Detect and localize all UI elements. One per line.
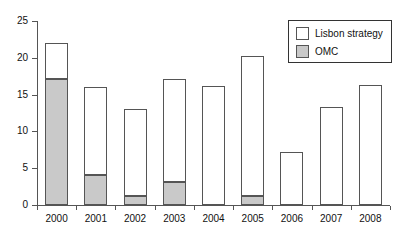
bar-2000	[45, 43, 68, 205]
bar-segment-lisbon-strategy-2007	[320, 107, 343, 205]
x-tick-mark	[233, 206, 234, 210]
stacked-bar-chart: 0510152025 20002001200220032004200520062…	[0, 0, 400, 241]
bar-segment-lisbon-strategy-2001	[84, 87, 107, 175]
y-tick-mark	[32, 58, 37, 59]
x-tick-label-2000: 2000	[37, 213, 77, 224]
y-tick-label: 15	[2, 90, 28, 100]
legend-item-omc: OMC	[296, 44, 338, 58]
x-tick-mark	[115, 206, 116, 210]
bar-2008	[359, 85, 382, 205]
y-tick-mark	[32, 95, 37, 96]
y-tick-label: 10	[2, 126, 28, 136]
y-axis-line	[37, 21, 38, 206]
x-tick-mark	[194, 206, 195, 210]
bar-2007	[320, 107, 343, 205]
bar-segment-lisbon-strategy-2008	[359, 85, 382, 205]
chart-legend: Lisbon strategy OMC	[288, 20, 392, 63]
legend-swatch-omc	[296, 45, 309, 58]
bar-segment-lisbon-strategy-2006	[280, 152, 303, 205]
x-tick-label-2002: 2002	[115, 213, 155, 224]
legend-swatch-lisbon-strategy	[296, 27, 309, 40]
x-tick-label-2007: 2007	[311, 213, 351, 224]
x-tick-mark	[272, 206, 273, 210]
y-tick-mark	[32, 168, 37, 169]
bar-2006	[280, 152, 303, 205]
bar-2004	[202, 86, 225, 205]
x-tick-mark	[76, 206, 77, 210]
bar-segment-lisbon-strategy-2000	[45, 43, 68, 79]
x-tick-mark	[37, 206, 38, 210]
y-tick-label: 5	[2, 163, 28, 173]
legend-item-lisbon-strategy: Lisbon strategy	[296, 26, 383, 40]
bar-segment-omc-2001	[84, 175, 107, 205]
bar-segment-lisbon-strategy-2002	[124, 109, 147, 197]
x-tick-mark	[351, 206, 352, 210]
bar-segment-lisbon-strategy-2005	[241, 56, 264, 196]
x-tick-label-2004: 2004	[194, 213, 234, 224]
x-tick-label-2006: 2006	[272, 213, 312, 224]
bar-2005	[241, 56, 264, 205]
bar-segment-omc-2000	[45, 79, 68, 205]
bar-segment-omc-2003	[163, 182, 186, 205]
y-tick-mark	[32, 21, 37, 22]
y-tick-label: 25	[2, 16, 28, 26]
bar-2003	[163, 79, 186, 205]
x-tick-label-2008: 2008	[350, 213, 390, 224]
legend-label-lisbon-strategy: Lisbon strategy	[315, 28, 383, 39]
x-tick-mark	[155, 206, 156, 210]
bar-segment-lisbon-strategy-2004	[202, 86, 225, 205]
y-tick-mark	[32, 131, 37, 132]
x-axis-line	[37, 205, 390, 206]
x-tick-mark	[312, 206, 313, 210]
x-tick-label-2003: 2003	[154, 213, 194, 224]
x-tick-label-2001: 2001	[76, 213, 116, 224]
y-tick-label: 20	[2, 53, 28, 63]
bar-segment-omc-2002	[124, 196, 147, 205]
bar-2001	[84, 87, 107, 205]
x-tick-label-2005: 2005	[233, 213, 273, 224]
bar-segment-omc-2005	[241, 196, 264, 205]
y-tick-label: 0	[2, 200, 28, 210]
legend-label-omc: OMC	[315, 46, 338, 57]
bar-segment-lisbon-strategy-2003	[163, 79, 186, 182]
x-tick-mark	[390, 206, 391, 210]
bar-2002	[124, 109, 147, 205]
